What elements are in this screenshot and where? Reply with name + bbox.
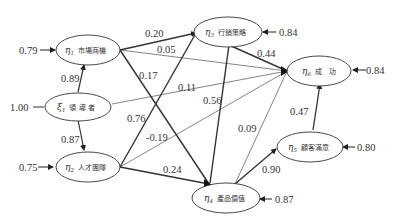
edge-eta3-eta4 bbox=[210, 45, 229, 183]
coef-eta2-eta3: 0.76 bbox=[127, 113, 145, 124]
coef-eta3-eta4: 0.56 bbox=[203, 95, 221, 106]
coef-eta1-eta6: 0.05 bbox=[157, 44, 175, 55]
coef-eta1-eta4: 0.17 bbox=[139, 70, 157, 81]
error-eta3: 0.84 bbox=[279, 27, 298, 38]
error-eta4: 0.87 bbox=[275, 194, 293, 205]
coef-eta2-eta6: -0.19 bbox=[146, 132, 168, 143]
error-eta2: 0.75 bbox=[19, 162, 37, 173]
coef-xi1-eta2: 0.87 bbox=[61, 134, 79, 145]
path-diagram: η1市場商機 ξ1領 導 者 η2人才團隊 η3行銷策略 η6成 功 η5顧客滿… bbox=[0, 0, 394, 224]
error-eta1: 0.79 bbox=[19, 45, 37, 56]
coef-eta4-eta6: 0.09 bbox=[238, 123, 256, 134]
coef-eta3-eta6: 0.44 bbox=[257, 48, 276, 59]
error-xi1: 1.00 bbox=[10, 102, 28, 113]
node-eta6-label: η6成 功 bbox=[302, 66, 336, 77]
coef-xi1-eta1: 0.89 bbox=[61, 73, 79, 84]
error-eta5: 0.80 bbox=[357, 142, 375, 153]
error-eta6: 0.84 bbox=[366, 65, 385, 76]
coef-eta2-eta4: 0.24 bbox=[163, 164, 182, 175]
coef-eta4-eta5: 0.90 bbox=[262, 164, 280, 175]
coef-xi1-eta6: 0.11 bbox=[178, 82, 196, 93]
coef-eta5-eta6: 0.47 bbox=[290, 106, 308, 117]
coef-eta1-eta3: 0.20 bbox=[145, 28, 163, 39]
edge-eta5-eta6 bbox=[313, 84, 320, 130]
